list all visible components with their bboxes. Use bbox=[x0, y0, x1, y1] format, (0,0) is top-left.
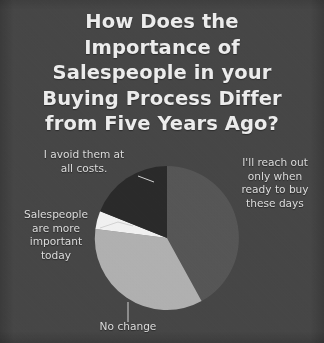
title-line-5: from Five Years Ago? bbox=[0, 111, 324, 137]
slice-label-avoid-line-1: I avoid them at bbox=[18, 148, 150, 162]
slice-label-more-important-line-4: today bbox=[4, 249, 108, 263]
slice-label-more-important-line-1: Salespeople bbox=[4, 208, 108, 222]
slice-label-reach-out-line-3: ready to buy bbox=[232, 183, 318, 197]
slice-label-reach-out: I'll reach out only when ready to buy th… bbox=[232, 156, 318, 210]
title-line-3: Salespeople in your bbox=[0, 60, 324, 86]
title-line-1: How Does the bbox=[0, 9, 324, 35]
slice-label-more-important-line-2: are more bbox=[4, 222, 108, 236]
title-line-2: Importance of bbox=[0, 35, 324, 61]
slice-label-avoid-line-2: all costs. bbox=[18, 162, 150, 176]
page-title: How Does the Importance of Salespeople i… bbox=[0, 9, 324, 137]
slice-label-no-change: No change bbox=[86, 320, 170, 334]
slice-label-more-important-line-3: important bbox=[4, 235, 108, 249]
slice-label-reach-out-line-1: I'll reach out bbox=[232, 156, 318, 170]
slice-label-reach-out-line-4: these days bbox=[232, 197, 318, 211]
title-line-4: Buying Process Differ bbox=[0, 86, 324, 112]
slice-label-more-important: Salespeople are more important today bbox=[4, 208, 108, 262]
slice-label-avoid: I avoid them at all costs. bbox=[18, 148, 150, 175]
infographic-canvas: How Does the Importance of Salespeople i… bbox=[0, 0, 324, 343]
slice-label-no-change-line-1: No change bbox=[86, 320, 170, 334]
slice-label-reach-out-line-2: only when bbox=[232, 170, 318, 184]
